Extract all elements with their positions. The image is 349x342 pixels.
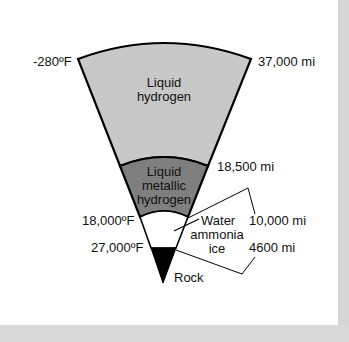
radius-outer: 37,000 mi bbox=[258, 55, 315, 69]
radius-metallic-top: 18,500 mi bbox=[217, 160, 274, 174]
layer-rock bbox=[151, 248, 176, 283]
label-ammonia-ice: ammonia ice bbox=[187, 228, 247, 256]
temp-outer: -280ºF bbox=[33, 55, 72, 69]
label-water: Water bbox=[201, 214, 235, 228]
label-liquid-hydrogen: Liquid hydrogen bbox=[134, 76, 194, 104]
label-line: hydrogen bbox=[131, 193, 197, 207]
label-line: Liquid bbox=[134, 76, 194, 90]
radius-ice-top: 10,000 mi bbox=[249, 214, 306, 228]
label-line: ice bbox=[187, 242, 247, 256]
temp-rock-top: 27,000ºF bbox=[91, 241, 143, 255]
radius-rock-top: 4600 mi bbox=[249, 241, 295, 255]
layer-water-ammonia-ice bbox=[140, 211, 188, 248]
label-liquid-metallic-hydrogen: Liquid metallic hydrogen bbox=[131, 165, 197, 207]
label-line: metallic bbox=[131, 179, 197, 193]
label-line: ammonia bbox=[187, 228, 247, 242]
label-line: Liquid bbox=[131, 165, 197, 179]
label-rock: Rock bbox=[174, 271, 204, 285]
layer-liquid-hydrogen bbox=[78, 43, 251, 166]
temp-ice-top: 18,000ºF bbox=[82, 214, 134, 228]
label-line: hydrogen bbox=[134, 90, 194, 104]
